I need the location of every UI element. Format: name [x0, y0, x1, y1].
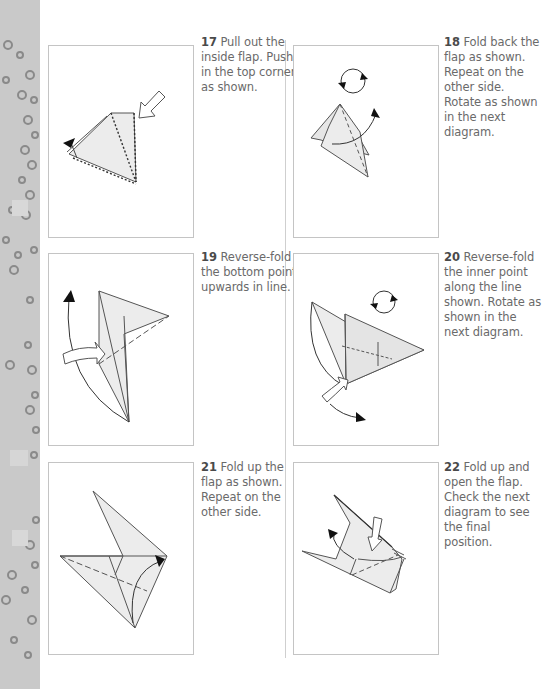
- diagram-step-22: [293, 462, 439, 655]
- origami-diagram-icon: [294, 46, 440, 239]
- origami-diagram-icon: [294, 463, 440, 656]
- column-divider: [285, 40, 286, 658]
- step-number: 19: [201, 250, 217, 264]
- diagram-step-21: [48, 462, 194, 655]
- caption-step-20: 20 Reverse-fold the inner point along th…: [444, 250, 542, 340]
- origami-diagram-icon: [49, 254, 195, 447]
- decorative-side-strip: [0, 0, 40, 689]
- caption-step-18: 18 Fold back the flap as shown. Repeat o…: [444, 35, 542, 140]
- origami-diagram-icon: [49, 463, 195, 656]
- step-number: 22: [444, 460, 460, 474]
- caption-step-17: 17 Pull out the inside flap. Push in the…: [201, 35, 299, 95]
- step-number: 21: [201, 460, 217, 474]
- diagram-step-20: [293, 253, 439, 446]
- step-number: 17: [201, 35, 217, 49]
- step-number: 20: [444, 250, 460, 264]
- origami-diagram-icon: [49, 46, 195, 239]
- step-text: Fold back the flap as shown. Repeat on t…: [444, 35, 539, 139]
- caption-step-19: 19 Reverse-fold the bottom point upwards…: [201, 250, 299, 295]
- origami-diagram-icon: [294, 254, 440, 447]
- floral-pattern-icon: [0, 0, 40, 689]
- diagram-step-19: [48, 253, 194, 446]
- caption-step-22: 22 Fold up and open the flap. Check the …: [444, 460, 542, 550]
- caption-step-21: 21 Fold up the flap as shown. Repeat on …: [201, 460, 299, 520]
- step-number: 18: [444, 35, 460, 49]
- diagram-step-18: [293, 45, 439, 238]
- diagram-step-17: [48, 45, 194, 238]
